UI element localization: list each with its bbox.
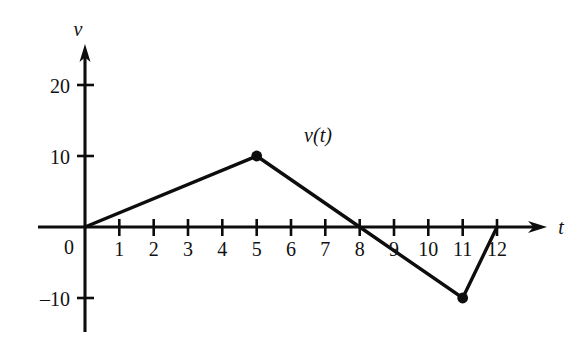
x-tick-label-7: 7 — [320, 238, 330, 260]
x-tick-label-12: 12 — [487, 238, 507, 260]
y-tick-label-10: 10 — [50, 146, 70, 168]
x-tick-label-5: 5 — [252, 238, 262, 260]
x-tick-label-4: 4 — [217, 238, 227, 260]
x-tick-label-2: 2 — [149, 238, 159, 260]
velocity-time-graph: 20 10 –10 0 1 2 3 4 5 6 7 8 9 10 11 12 v… — [0, 0, 586, 348]
x-tick-label-3: 3 — [183, 238, 193, 260]
x-tick-label-9: 9 — [389, 238, 399, 260]
y-tick-label-20: 20 — [50, 75, 70, 97]
origin-label: 0 — [64, 236, 74, 258]
x-tick-label-1: 1 — [114, 238, 124, 260]
x-axis-tick-labels: 1 2 3 4 5 6 7 8 9 10 11 12 — [114, 238, 507, 260]
x-tick-label-8: 8 — [355, 238, 365, 260]
y-tick-label-minus-10: –10 — [39, 288, 70, 310]
data-point-max — [251, 151, 262, 162]
x-axis-label: t — [558, 216, 564, 238]
data-point-min — [457, 293, 468, 304]
y-axis-tick-labels: 20 10 –10 — [39, 75, 70, 310]
axes-group — [38, 44, 547, 332]
x-tick-label-10: 10 — [418, 238, 438, 260]
x-tick-label-6: 6 — [286, 238, 296, 260]
curve-label: v(t) — [304, 124, 332, 147]
y-axis-label: v — [74, 18, 83, 40]
x-tick-label-11: 11 — [453, 238, 472, 260]
